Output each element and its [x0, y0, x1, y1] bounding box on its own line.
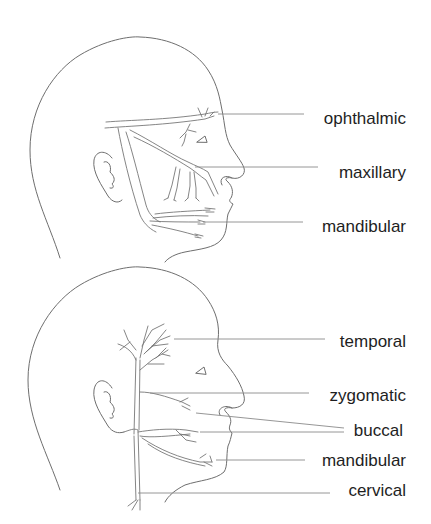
- label-trigeminal-maxillary: maxillary: [339, 163, 407, 182]
- zygomatic-branch: [140, 392, 190, 410]
- buccal-branch: [138, 429, 198, 442]
- ear-inner-top: [104, 162, 114, 189]
- label-facial-zygomatic: zygomatic: [329, 386, 406, 405]
- ophthalmic-nerve: [105, 108, 218, 146]
- label-trigeminal-ophthalmic: ophthalmic: [324, 109, 407, 128]
- trigeminal-figure: [30, 37, 244, 262]
- head-outline-top: [30, 37, 244, 262]
- facial-nerve-trunk: [118, 324, 170, 500]
- eye-top: [197, 136, 207, 142]
- leader-line-facial-2: [196, 413, 344, 428]
- label-trigeminal-mandibular: mandibular: [322, 217, 406, 236]
- mandibular-branch: [142, 438, 212, 466]
- labels-layer: ophthalmicmaxillarymandibulartemporalzyg…: [138, 109, 406, 500]
- eye-bottom: [196, 367, 206, 374]
- facial-nerves-diagram: ophthalmicmaxillarymandibulartemporalzyg…: [0, 0, 431, 524]
- ear-top: [94, 152, 122, 202]
- ear-bottom: [94, 381, 124, 433]
- label-facial-buccal: buccal: [354, 421, 403, 440]
- label-facial-mandibular: mandibular: [322, 451, 406, 470]
- label-facial-cervical: cervical: [348, 481, 406, 500]
- facial-nerve-figure: [28, 267, 244, 510]
- cervical-branch: [128, 500, 140, 510]
- ear-inner-bottom: [104, 392, 114, 419]
- mandibular-nerve: [150, 208, 215, 238]
- temporal-branch: [140, 348, 170, 370]
- label-facial-temporal: temporal: [340, 332, 406, 351]
- head-outline-bottom: [28, 267, 244, 502]
